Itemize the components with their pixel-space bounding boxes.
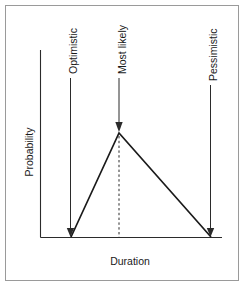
triangular-distribution-curve (71, 133, 211, 237)
distribution-chart: Optimistic Most likely Pessimistic Proba… (0, 0, 246, 288)
annotation-label-pessimistic: Pessimistic (207, 28, 219, 81)
y-axis-label: Probability (23, 127, 35, 177)
figure-root: Optimistic Most likely Pessimistic Proba… (0, 0, 246, 288)
optimistic-pointer (67, 78, 74, 237)
annotation-label-optimistic: Optimistic (67, 28, 79, 74)
most-likely-pointer (115, 78, 122, 132)
pessimistic-pointer (207, 85, 214, 237)
annotation-label-most-likely: Most likely (116, 24, 128, 74)
x-axis-label: Duration (110, 255, 150, 267)
arrow-down-icon (115, 122, 122, 132)
